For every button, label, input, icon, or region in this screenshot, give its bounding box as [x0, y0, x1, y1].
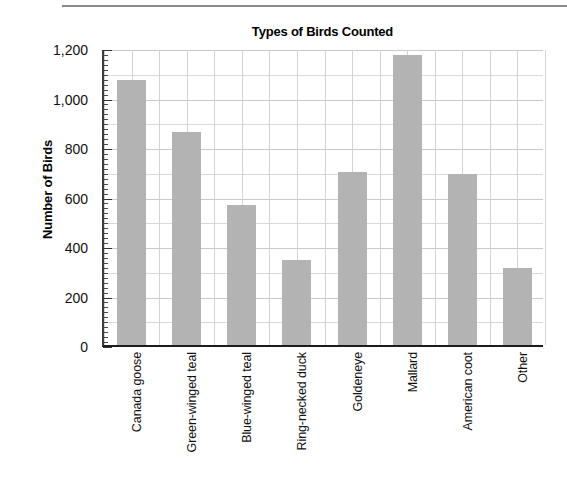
x-axis-label-slot: Mallard — [378, 352, 433, 480]
bar[interactable] — [503, 268, 532, 345]
bar-chart-figure: Types of Birds Counted Number of Birds 0… — [0, 0, 567, 503]
y-axis-tick-label: 800 — [65, 141, 88, 157]
x-axis-tick-label: Ring-necked duck — [295, 352, 309, 450]
y-axis-tick-labels: 02004006008001,0001,200 — [0, 50, 96, 347]
y-axis-major-tick — [103, 347, 112, 348]
x-axis-label-slot: Blue-winged teal — [212, 352, 267, 480]
x-axis-label-slot: American coot — [433, 352, 488, 480]
bar[interactable] — [172, 132, 201, 345]
x-axis-tick-label: American coot — [461, 352, 475, 431]
x-axis-label-slot: Other — [488, 352, 543, 480]
bar[interactable] — [448, 174, 477, 345]
x-axis-label-slot: Green-winged teal — [157, 352, 212, 480]
x-axis-tick-labels: Canada gooseGreen-winged tealBlue-winged… — [102, 352, 543, 482]
bar[interactable] — [282, 260, 311, 345]
plot-area — [102, 50, 543, 347]
x-axis-tick-label: Green-winged teal — [185, 352, 199, 452]
x-axis-label-slot: Canada goose — [102, 352, 157, 480]
y-axis-tick-label: 200 — [65, 290, 88, 306]
x-axis-tick-label: Canada goose — [130, 352, 144, 432]
x-axis-tick-label: Mallard — [406, 352, 420, 392]
bar[interactable] — [117, 80, 146, 345]
x-axis-label-slot: Goldeneye — [323, 352, 378, 480]
y-axis-tick-label: 600 — [65, 191, 88, 207]
y-axis-tick-label: 400 — [65, 240, 88, 256]
x-axis-tick-label: Blue-winged teal — [240, 352, 254, 443]
y-axis-tick-label: 1,200 — [53, 42, 88, 58]
y-axis-tick-label: 1,000 — [53, 92, 88, 108]
bar[interactable] — [227, 205, 256, 345]
x-axis-tick-label: Goldeneye — [351, 352, 365, 412]
x-axis-label-slot: Ring-necked duck — [267, 352, 322, 480]
y-axis-tick-label: 0 — [80, 339, 88, 355]
x-axis-tick-label: Other — [516, 352, 530, 383]
chart-title: Types of Birds Counted — [102, 24, 543, 39]
bar[interactable] — [338, 172, 367, 345]
bars-layer — [104, 50, 543, 345]
gridline-vertical — [545, 50, 546, 345]
bar[interactable] — [393, 55, 422, 345]
